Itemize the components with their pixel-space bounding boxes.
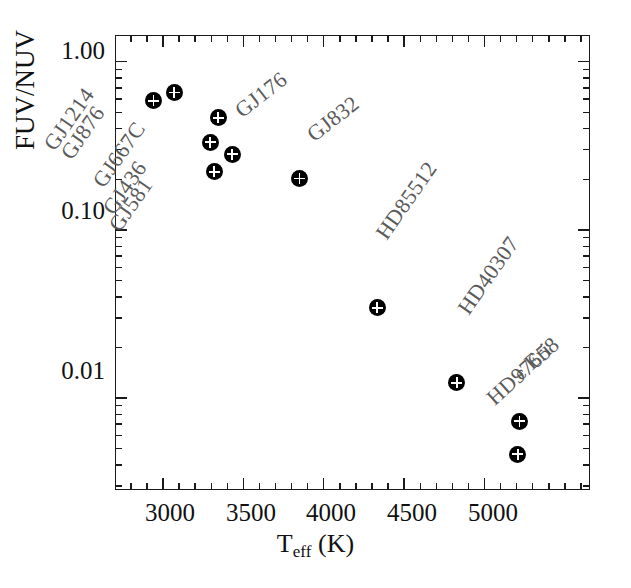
x-axis-minor-tick [211, 483, 212, 489]
marker-cross-vertical [456, 377, 458, 388]
x-axis-minor-tick [387, 483, 388, 489]
x-axis-minor-tick [339, 483, 340, 489]
y-axis-minor-tick [583, 98, 589, 99]
marker-cross-vertical [217, 112, 219, 123]
y-axis-minor-tick [583, 347, 589, 348]
data-point-label: HD85512 [372, 158, 441, 243]
y-axis-major-tick [116, 397, 127, 398]
x-axis-minor-tick [452, 36, 453, 42]
y-axis-major-tick [578, 397, 589, 398]
x-axis-minor-tick [146, 483, 147, 489]
data-point-marker[interactable] [509, 446, 526, 463]
y-axis-minor-tick [583, 317, 589, 318]
data-point-marker[interactable] [448, 374, 465, 391]
y-axis-minor-tick [116, 69, 122, 70]
x-axis-minor-tick [291, 36, 292, 42]
x-axis-minor-tick [259, 483, 260, 489]
x-axis-minor-tick [178, 483, 179, 489]
marker-cross-vertical [173, 87, 175, 98]
marker-cross-vertical [209, 137, 211, 148]
x-tick-label: 4500 [387, 500, 437, 525]
x-axis-minor-tick [194, 36, 195, 42]
x-axis-minor-tick [371, 483, 372, 489]
data-point-marker[interactable] [145, 92, 162, 109]
x-axis-minor-tick [355, 483, 356, 489]
marker-cross-vertical [231, 149, 233, 160]
x-axis-minor-tick [275, 483, 276, 489]
x-axis-title-main: T [277, 529, 293, 558]
y-axis-major-tick [578, 229, 589, 230]
data-point-marker[interactable] [369, 299, 386, 316]
x-axis-minor-tick [532, 36, 533, 42]
x-axis-minor-tick [275, 36, 276, 42]
x-axis-minor-tick [580, 483, 581, 489]
y-axis-minor-tick [116, 112, 122, 113]
y-axis-minor-tick [583, 149, 589, 150]
x-tick-label: 3000 [145, 500, 195, 525]
marker-cross-vertical [213, 166, 215, 177]
marker-cross-vertical [153, 95, 155, 106]
x-axis-title-unit: (K) [312, 529, 355, 558]
x-axis-minor-tick [516, 36, 517, 42]
x-tick-label: 4000 [306, 500, 356, 525]
y-axis-minor-tick [583, 246, 589, 247]
x-axis-major-tick [403, 36, 404, 47]
y-axis-minor-tick [116, 448, 122, 449]
y-axis-minor-tick [116, 296, 122, 297]
data-point-marker[interactable] [206, 163, 223, 180]
data-point-label: GJ832 [303, 92, 363, 146]
x-axis-minor-tick [580, 36, 581, 42]
y-axis-minor-tick [583, 280, 589, 281]
x-axis-minor-tick [436, 36, 437, 42]
y-axis-minor-tick [583, 69, 589, 70]
y-axis-minor-tick [116, 435, 122, 436]
x-axis-minor-tick [227, 36, 228, 42]
x-axis-minor-tick [436, 483, 437, 489]
plot-area: GJ1214GJ876GJ667CGJ436GJ581GJ176GJ832HD8… [115, 35, 590, 490]
x-axis-title-subscript: eff [293, 542, 312, 561]
y-axis-minor-tick [116, 237, 122, 238]
y-axis-minor-tick [116, 87, 122, 88]
x-axis-minor-tick [227, 483, 228, 489]
y-axis-minor-tick [583, 237, 589, 238]
x-axis-minor-tick [307, 36, 308, 42]
y-axis-minor-tick [116, 255, 122, 256]
y-axis-minor-tick [583, 405, 589, 406]
x-axis-minor-tick [371, 36, 372, 42]
x-axis-major-tick [323, 478, 324, 489]
y-axis-minor-tick [116, 280, 122, 281]
data-point-label: HD97658 [482, 333, 563, 409]
x-axis-minor-tick [500, 36, 501, 42]
x-axis-minor-tick [146, 36, 147, 42]
data-point-marker[interactable] [291, 170, 308, 187]
y-axis-minor-tick [116, 98, 122, 99]
x-axis-minor-tick [468, 36, 469, 42]
data-point-marker[interactable] [210, 109, 227, 126]
x-axis-minor-tick [259, 36, 260, 42]
y-axis-minor-tick [583, 112, 589, 113]
y-axis-minor-tick [583, 485, 589, 486]
x-axis-minor-tick [307, 483, 308, 489]
y-axis-title: FUV/NUV [10, 0, 50, 195]
scatter-figure: FUV/NUV 1.00 0.10 0.01 3000 3500 4000 45… [0, 0, 631, 588]
x-axis-minor-tick [130, 36, 131, 42]
x-axis-minor-tick [500, 483, 501, 489]
y-axis-minor-tick [583, 267, 589, 268]
x-axis-minor-tick [564, 483, 565, 489]
y-axis-minor-tick [116, 414, 122, 415]
x-axis-major-tick [484, 478, 485, 489]
x-axis-minor-tick [548, 483, 549, 489]
x-axis-minor-tick [420, 483, 421, 489]
x-axis-minor-tick [178, 36, 179, 42]
y-axis-minor-tick [583, 414, 589, 415]
data-point-marker[interactable] [511, 413, 528, 430]
data-point-marker[interactable] [224, 146, 241, 163]
x-axis-title: Teff (K) [0, 529, 631, 562]
y-axis-minor-tick [583, 464, 589, 465]
y-axis-minor-tick [116, 423, 122, 424]
data-point-marker[interactable] [202, 134, 219, 151]
x-axis-minor-tick [564, 36, 565, 42]
x-axis-minor-tick [420, 36, 421, 42]
x-tick-label: 3500 [226, 500, 276, 525]
data-point-marker[interactable] [166, 84, 183, 101]
